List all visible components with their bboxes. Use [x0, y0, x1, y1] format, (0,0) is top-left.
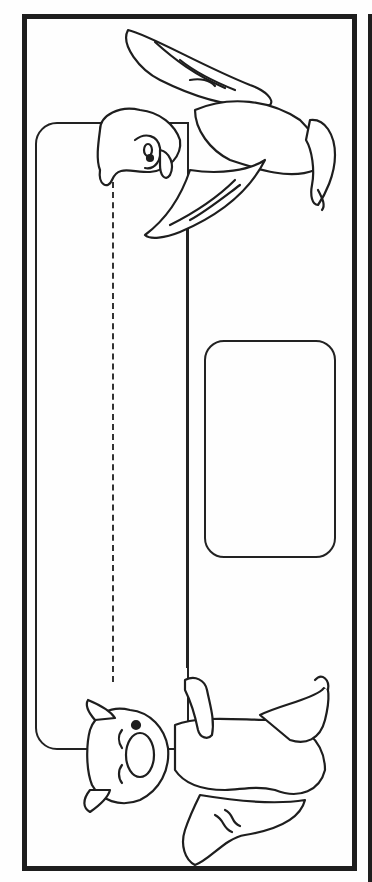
parrot-icon — [98, 30, 335, 238]
illustrations — [0, 0, 372, 882]
fox-icon — [84, 677, 328, 865]
coloring-page — [0, 0, 372, 882]
